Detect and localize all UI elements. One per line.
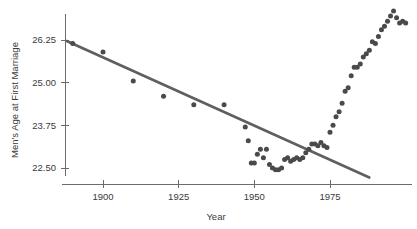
chart-container: 22.5023.7525.0026.251900192519501975 Men… bbox=[0, 0, 417, 229]
data-point bbox=[349, 73, 354, 78]
data-point bbox=[403, 20, 408, 25]
axes bbox=[62, 14, 412, 184]
data-point bbox=[385, 19, 390, 24]
data-point bbox=[161, 94, 166, 99]
y-tick-label: 26.25 bbox=[32, 34, 56, 45]
x-tick-label: 1975 bbox=[319, 191, 340, 202]
x-tick-label: 1925 bbox=[168, 191, 189, 202]
data-point bbox=[191, 102, 196, 107]
data-point bbox=[246, 138, 251, 143]
data-point bbox=[252, 160, 257, 165]
data-point bbox=[394, 15, 399, 20]
tick-labels: 22.5023.7525.0026.251900192519501975 bbox=[32, 34, 340, 202]
data-point bbox=[328, 130, 333, 135]
data-point bbox=[300, 155, 305, 160]
data-point bbox=[391, 8, 396, 13]
data-point bbox=[334, 114, 339, 119]
data-point bbox=[388, 14, 393, 19]
data-point bbox=[340, 101, 345, 106]
data-point bbox=[258, 147, 263, 152]
tick-marks bbox=[61, 40, 330, 188]
data-point bbox=[324, 145, 329, 150]
data-point bbox=[255, 152, 260, 157]
data-point bbox=[261, 155, 266, 160]
data-point bbox=[264, 147, 269, 152]
data-point bbox=[331, 123, 336, 128]
y-tick-label: 23.75 bbox=[32, 120, 56, 131]
data-point bbox=[279, 166, 284, 171]
data-point bbox=[337, 109, 342, 114]
data-point bbox=[346, 85, 351, 90]
x-tick-label: 1900 bbox=[92, 191, 113, 202]
y-tick-label: 22.50 bbox=[32, 162, 56, 173]
y-axis-title: Men's Age at First Marriage bbox=[9, 42, 20, 158]
data-point bbox=[101, 49, 106, 54]
x-tick-label: 1950 bbox=[244, 191, 265, 202]
data-point bbox=[367, 48, 372, 53]
data-point bbox=[382, 24, 387, 29]
data-point bbox=[131, 78, 136, 83]
scatter-plot: 22.5023.7525.0026.251900192519501975 Men… bbox=[0, 0, 417, 229]
data-points bbox=[70, 8, 408, 172]
data-point bbox=[376, 34, 381, 39]
data-point bbox=[358, 61, 363, 66]
y-tick-label: 25.00 bbox=[32, 77, 56, 88]
regression-line bbox=[67, 41, 370, 178]
trend-line bbox=[67, 41, 370, 178]
data-point bbox=[306, 147, 311, 152]
x-axis-title: Year bbox=[206, 211, 225, 222]
data-point bbox=[222, 102, 227, 107]
data-point bbox=[373, 41, 378, 46]
data-point bbox=[243, 125, 248, 130]
data-point bbox=[70, 41, 75, 46]
